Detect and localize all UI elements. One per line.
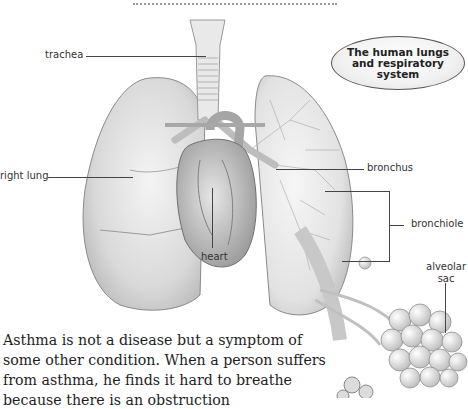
bronchus-leader (276, 169, 364, 170)
label-heart: heart (201, 251, 228, 262)
bronchiole-leader (390, 225, 404, 226)
label-right-lung: right lung (0, 170, 48, 181)
left-lung-shape (255, 76, 353, 315)
alveolar-sac-leader (445, 283, 446, 333)
label-alveolar-sac: alveolar sac (426, 261, 466, 285)
bronchiole-bracket-bottom (342, 261, 390, 262)
heart-leader (212, 188, 213, 248)
label-bronchiole: bronchiole (411, 218, 463, 229)
bronchiole-bracket-side (389, 191, 390, 261)
right-lung-leader (48, 177, 133, 178)
alveolar-sac-shape (381, 304, 467, 388)
label-alveolar-line1: alveolar (426, 261, 466, 272)
trachea-leader (86, 56, 206, 57)
title-bubble: The human lungs and respiratory system (331, 36, 465, 90)
label-bronchus: bronchus (367, 162, 413, 173)
title-bubble-text: The human lungs and respiratory system (338, 47, 458, 80)
label-alveolar-line2: sac (438, 273, 455, 284)
bronchiole-bracket-top (325, 191, 390, 192)
label-trachea: trachea (45, 49, 83, 60)
body-paragraph: Asthma is not a disease but a symptom of… (3, 330, 343, 409)
